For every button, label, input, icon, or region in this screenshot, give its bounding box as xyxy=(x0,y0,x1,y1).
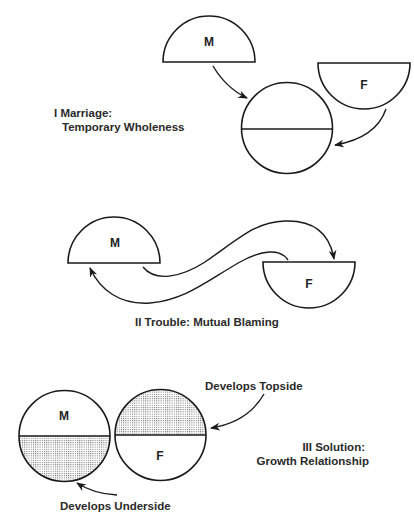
section-solution: M F Develops Topside Develops Underside … xyxy=(19,380,369,512)
male-label: M xyxy=(59,409,69,423)
female-join-arrow xyxy=(335,109,386,145)
male-label: M xyxy=(204,35,214,49)
section-iii-caption-line1: III Solution: xyxy=(302,441,365,453)
section-i-caption-line2: Temporary Wholeness xyxy=(62,121,185,133)
underside-annotation: Develops Underside xyxy=(60,500,171,512)
underside-annotation-arrow xyxy=(77,483,117,495)
male-join-arrow xyxy=(213,66,247,98)
female-developed-topside xyxy=(115,390,206,435)
section-marriage: M F I Marriage: Temporary Wholeness xyxy=(54,16,410,174)
female-label: F xyxy=(360,78,367,92)
male-developed-underside xyxy=(19,436,110,482)
topside-annotation-arrow xyxy=(211,394,264,428)
male-label: M xyxy=(110,236,120,250)
topside-annotation: Develops Topside xyxy=(205,380,303,392)
section-iii-caption-line2: Growth Relationship xyxy=(257,455,369,467)
section-trouble: M F II Trouble: Mutual Blaming xyxy=(68,217,355,328)
section-i-caption-line1: I Marriage: xyxy=(54,107,112,119)
section-ii-caption: II Trouble: Mutual Blaming xyxy=(135,316,279,328)
female-label: F xyxy=(156,449,163,463)
marriage-growth-diagram: M F I Marriage: Temporary Wholeness M F … xyxy=(0,0,414,515)
female-label: F xyxy=(305,277,312,291)
whole-circle-shape xyxy=(242,83,333,174)
